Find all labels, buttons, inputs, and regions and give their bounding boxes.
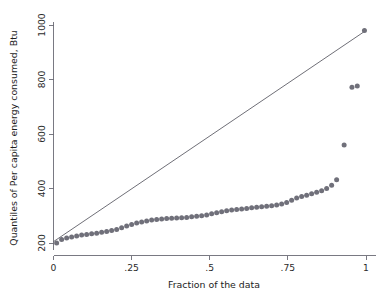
data-point xyxy=(139,220,144,225)
data-point xyxy=(244,206,249,211)
x-tick-label: .25 xyxy=(124,262,139,273)
data-point xyxy=(89,231,94,236)
data-point xyxy=(84,232,89,237)
data-point xyxy=(184,215,189,220)
x-tick-label: .5 xyxy=(205,262,214,273)
data-point xyxy=(289,198,294,203)
data-point xyxy=(264,204,269,209)
data-point xyxy=(194,214,199,219)
y-tick-label: 400 xyxy=(36,180,47,198)
quantile-plot-figure: 2004006008001000 0.25.5.751 Quantiles of… xyxy=(0,0,389,296)
data-point xyxy=(59,237,64,242)
diagonal-reference-line xyxy=(54,30,367,241)
y-tick-label: 600 xyxy=(36,125,47,143)
data-point xyxy=(104,229,109,234)
data-point xyxy=(124,224,129,229)
data-point xyxy=(214,210,219,215)
data-point xyxy=(224,208,229,213)
data-point xyxy=(259,204,264,209)
data-point xyxy=(239,206,244,211)
data-point xyxy=(314,190,319,195)
y-tick-label: 1000 xyxy=(36,13,47,37)
data-point xyxy=(319,188,324,193)
data-point xyxy=(254,205,259,210)
data-point xyxy=(149,218,154,223)
reference-line xyxy=(54,30,367,241)
data-point xyxy=(79,233,84,238)
data-point xyxy=(279,202,284,207)
data-point xyxy=(299,194,304,199)
y-tick-label: 200 xyxy=(36,234,47,252)
data-point xyxy=(274,203,279,208)
data-point xyxy=(129,222,134,227)
data-point xyxy=(234,207,239,212)
data-point xyxy=(164,216,169,221)
data-point xyxy=(94,231,99,236)
y-axis-ticks: 2004006008001000 xyxy=(36,13,54,252)
data-point xyxy=(219,209,224,214)
data-point xyxy=(362,28,367,33)
data-point xyxy=(329,183,334,188)
y-axis-title: Quantiles of Per capita energy consumed,… xyxy=(8,30,19,246)
data-point xyxy=(134,221,139,226)
data-point xyxy=(154,217,159,222)
data-point xyxy=(269,203,274,208)
x-tick-label: .75 xyxy=(281,262,296,273)
data-point xyxy=(334,177,339,182)
data-point xyxy=(355,84,360,89)
data-point xyxy=(119,225,124,230)
x-tick-label: 1 xyxy=(363,262,369,273)
data-point xyxy=(209,211,214,216)
data-point xyxy=(99,230,104,235)
data-point xyxy=(159,217,164,222)
data-point xyxy=(284,200,289,205)
data-point xyxy=(189,214,194,219)
data-point xyxy=(204,212,209,217)
data-point xyxy=(199,213,204,218)
data-point xyxy=(69,235,74,240)
data-point xyxy=(74,233,79,238)
data-point xyxy=(64,236,69,241)
data-point xyxy=(114,227,119,232)
data-point xyxy=(309,191,314,196)
data-point xyxy=(174,215,179,220)
data-point xyxy=(349,85,354,90)
data-point xyxy=(54,241,59,246)
x-axis-title: Fraction of the data xyxy=(168,279,260,290)
data-point xyxy=(144,218,149,223)
data-point xyxy=(169,216,174,221)
data-points xyxy=(54,28,367,246)
data-point xyxy=(249,205,254,210)
data-point xyxy=(179,215,184,220)
chart-canvas: 2004006008001000 0.25.5.751 Quantiles of… xyxy=(0,0,389,296)
data-point xyxy=(342,142,347,147)
data-point xyxy=(304,193,309,198)
x-axis-ticks: 0.25.5.751 xyxy=(51,256,369,274)
data-point xyxy=(229,208,234,213)
data-point xyxy=(109,228,114,233)
y-tick-label: 800 xyxy=(36,71,47,89)
x-tick-label: 0 xyxy=(51,262,57,273)
data-point xyxy=(324,186,329,191)
data-point xyxy=(294,196,299,201)
